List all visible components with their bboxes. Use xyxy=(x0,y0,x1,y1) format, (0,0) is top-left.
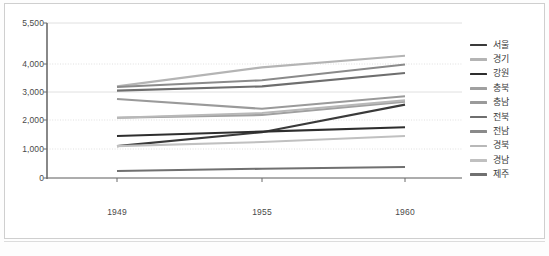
legend-label: 전남 xyxy=(493,127,509,136)
x-tick-label-1949: 1949 xyxy=(93,207,141,217)
series-line-2 xyxy=(117,127,405,136)
data-series-group xyxy=(117,56,405,171)
chart-legend: 서울경기강원충북충남전북전남경북경남제주 xyxy=(470,38,544,182)
legend-item-3[interactable]: 충북 xyxy=(470,81,544,95)
y-tick-label-4000: 4,000 xyxy=(0,59,44,69)
legend-swatch-icon xyxy=(470,101,487,104)
legend-item-2[interactable]: 강원 xyxy=(470,67,544,81)
series-line-1 xyxy=(117,56,405,87)
legend-label: 충북 xyxy=(493,84,509,93)
legend-label: 서울 xyxy=(493,41,509,50)
y-tick-label-5500: 5,500 xyxy=(0,18,44,28)
x-tick-label-1955: 1955 xyxy=(238,207,286,217)
series-line-4 xyxy=(117,96,405,109)
legend-label: 경기 xyxy=(493,55,509,64)
legend-swatch-icon xyxy=(470,173,487,176)
legend-swatch-icon xyxy=(470,58,487,61)
legend-item-6[interactable]: 전남 xyxy=(470,124,544,138)
legend-label: 충남 xyxy=(493,98,509,107)
chart-figure: 01,0002,0003,0004,0005,500 194919551960 … xyxy=(0,0,549,256)
legend-item-9[interactable]: 제주 xyxy=(470,168,544,182)
legend-swatch-icon xyxy=(470,159,487,162)
legend-swatch-icon xyxy=(470,145,487,148)
series-line-9 xyxy=(117,167,405,171)
legend-label: 강원 xyxy=(493,69,509,78)
legend-item-8[interactable]: 경남 xyxy=(470,153,544,167)
legend-item-4[interactable]: 충남 xyxy=(470,96,544,110)
legend-item-7[interactable]: 경북 xyxy=(470,139,544,153)
line-chart-plot xyxy=(0,0,549,256)
legend-item-1[interactable]: 경기 xyxy=(470,52,544,66)
legend-swatch-icon xyxy=(470,130,487,133)
legend-swatch-icon xyxy=(470,73,487,76)
legend-label: 경북 xyxy=(493,141,509,150)
legend-item-0[interactable]: 서울 xyxy=(470,38,544,52)
legend-swatch-icon xyxy=(470,44,487,47)
legend-label: 경남 xyxy=(493,156,509,165)
legend-swatch-icon xyxy=(470,116,487,119)
y-tick-label-0: 0 xyxy=(0,173,44,183)
legend-label: 전북 xyxy=(493,113,509,122)
y-tick-label-3000: 3,000 xyxy=(0,87,44,97)
y-tick-label-1000: 1,000 xyxy=(0,144,44,154)
legend-swatch-icon xyxy=(470,87,487,90)
x-tick-label-1960: 1960 xyxy=(381,207,429,217)
axis-ticks xyxy=(44,23,406,182)
legend-item-5[interactable]: 전북 xyxy=(470,110,544,124)
legend-label: 제주 xyxy=(493,170,509,179)
y-tick-label-2000: 2,000 xyxy=(0,115,44,125)
series-line-0 xyxy=(117,105,405,147)
